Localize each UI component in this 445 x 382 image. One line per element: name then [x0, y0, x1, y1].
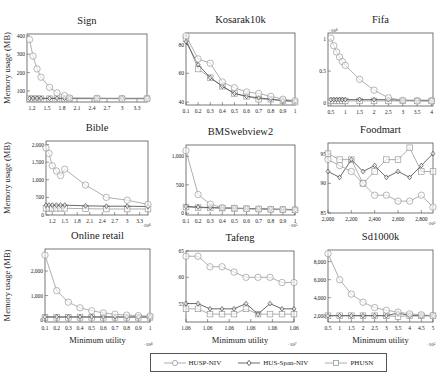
x-tick-label: 0.7	[112, 325, 119, 331]
y-tick-label: 400	[17, 33, 26, 39]
y-tick-label: 0	[323, 100, 326, 106]
x-tick-label: 1.5	[44, 105, 51, 111]
x-tick-label: 3	[126, 218, 129, 224]
legend-label: HUS-Span-NIV	[263, 359, 308, 367]
legend-item-phusn: PHUSN	[325, 359, 373, 367]
x-tick-label: 3	[401, 109, 404, 115]
circle-marker-icon	[267, 274, 273, 280]
series-husp-niv	[43, 145, 151, 208]
circle-marker-icon	[243, 274, 249, 280]
x-tick-label: 0.5	[325, 325, 332, 331]
x-tick-label: 1.8	[59, 105, 66, 111]
chart-foodmart: Foodmart8590952,0002,2002,4002,6002,800·…	[321, 124, 437, 226]
circle-marker-icon	[112, 311, 118, 317]
chart-title: Fifa	[372, 14, 389, 25]
series-husp-niv	[325, 156, 436, 210]
circle-marker-icon	[207, 264, 213, 270]
y-axis-label: Memory usage (MB)	[2, 142, 12, 214]
circle-marker-icon	[103, 194, 109, 200]
circle-marker-icon	[34, 66, 40, 72]
chart-sd1000k: Sd1000k2,0004,0006,0008,0000.511.522.533…	[314, 231, 437, 347]
circle-marker-icon	[219, 204, 225, 210]
legend-label: PHUSN	[350, 359, 373, 367]
diamond-marker-icon	[280, 306, 284, 311]
circle-marker-icon	[53, 287, 59, 293]
x-tick-label: 2.7	[104, 105, 111, 111]
square-marker-icon	[430, 169, 436, 175]
circle-marker-icon	[406, 198, 412, 204]
circle-marker-icon	[395, 309, 401, 315]
x-tick-label: 0.4	[219, 218, 226, 224]
circle-marker-icon	[195, 253, 201, 259]
square-marker-icon	[384, 157, 390, 163]
x-tick-label: 2,400	[368, 216, 381, 222]
x-tick-label: 1	[294, 108, 297, 114]
circle-marker-icon	[336, 162, 342, 168]
x-tick-label: 2.4	[89, 105, 96, 111]
x-tick-label: 2	[362, 325, 365, 331]
axes-frame	[328, 250, 433, 322]
chart-title: Foodmart	[360, 124, 401, 135]
chart-bible: Bible05001,0001,5002,0001.21.51.82.12.42…	[2, 122, 151, 228]
circle-marker-icon	[280, 96, 286, 102]
circle-marker-icon	[49, 162, 55, 168]
x-tick-label: 3	[121, 105, 124, 111]
circle-marker-icon	[325, 250, 331, 256]
diamond-marker-icon	[396, 169, 400, 174]
x-tick-label: 1.2	[29, 105, 36, 111]
circle-marker-icon	[207, 60, 213, 66]
x-tick-label: 1.06	[224, 325, 234, 331]
circle-marker-icon	[42, 252, 48, 258]
x-tick-label: 0.2	[53, 325, 60, 331]
x-tick-label: 2.5	[371, 325, 378, 331]
axes-frame	[45, 249, 150, 322]
diamond-marker-icon	[208, 306, 212, 311]
circle-marker-icon	[255, 274, 261, 280]
circle-marker-icon	[54, 90, 60, 96]
series-husp-niv	[183, 147, 298, 213]
x-tick-label: 2.7	[111, 218, 118, 224]
circle-marker-icon	[219, 79, 225, 85]
diamond-marker-icon	[232, 306, 236, 311]
square-marker-icon	[219, 311, 225, 317]
x-tick-label: 4	[430, 109, 433, 115]
x-tick-label: 2,200	[345, 216, 358, 222]
x-multiplier: ·10⁷	[288, 342, 297, 347]
circle-marker-icon	[348, 291, 354, 297]
diamond-marker-icon	[220, 306, 224, 311]
square-marker-icon	[325, 151, 331, 157]
y-axis-label: Memory usage (MB)	[2, 32, 12, 104]
circle-marker-icon	[231, 205, 237, 211]
circle-marker-icon	[325, 156, 331, 162]
series-husp-niv	[328, 35, 435, 104]
legend-label: HUSP-NIV	[189, 359, 222, 367]
circle-marker-icon	[124, 197, 130, 203]
y-tick-label: 40	[179, 99, 185, 105]
x-tick-label: 0.7	[255, 108, 262, 114]
chart-sign: Sign1002003004001.21.51.82.12.42.733.3Me…	[2, 15, 150, 111]
axes-frame	[186, 145, 295, 215]
circle-marker-icon	[123, 312, 129, 318]
circle-marker-icon	[255, 206, 261, 212]
x-tick-label: 2.1	[74, 105, 81, 111]
circle-marker-icon	[430, 204, 436, 210]
circle-marker-icon	[94, 95, 100, 101]
circle-marker-icon	[360, 299, 366, 305]
x-tick-label: 0.8	[267, 218, 274, 224]
x-tick-label: 0.7	[255, 218, 262, 224]
x-multiplier: ·10⁴	[142, 223, 151, 228]
x-tick-label: 0.5	[231, 218, 238, 224]
y-tick-label: 4,000	[314, 295, 327, 301]
circle-marker-icon	[147, 313, 153, 319]
circle-marker-icon	[46, 84, 52, 90]
x-tick-label: 0.4	[77, 325, 84, 331]
circle-marker-icon	[406, 311, 412, 317]
x-multiplier: ·10⁵	[427, 342, 436, 347]
x-tick-label: 2.5	[385, 109, 392, 115]
circle-marker-icon	[371, 87, 377, 93]
x-tick-label: 0.3	[207, 108, 214, 114]
circle-marker-icon	[371, 192, 377, 198]
square-marker-icon	[183, 306, 189, 312]
circle-marker-icon	[383, 307, 389, 313]
x-tick-label: 0.2	[195, 218, 202, 224]
